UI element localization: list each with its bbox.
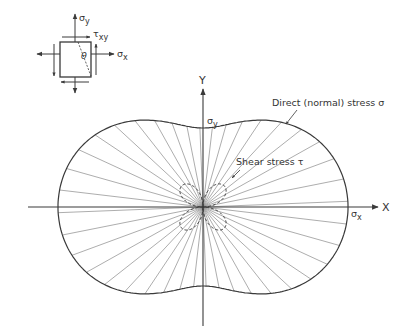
normal-stress-label: Direct (normal) stress σ bbox=[272, 97, 384, 108]
stress-ray bbox=[203, 179, 344, 207]
stress-ray bbox=[58, 207, 203, 213]
element-sigma-x-label: σx bbox=[117, 48, 128, 62]
stress-ray bbox=[203, 129, 302, 207]
stress-ray bbox=[155, 121, 203, 208]
stress-ray bbox=[164, 207, 203, 292]
sigma-x-axis-label: σx bbox=[351, 208, 362, 222]
stress-ray bbox=[72, 207, 203, 255]
stress-ray bbox=[86, 207, 203, 272]
element-theta-label: θ bbox=[81, 50, 87, 61]
stress-ray bbox=[62, 207, 203, 235]
stress-ray bbox=[203, 207, 251, 294]
stress-ray bbox=[203, 207, 234, 291]
stress-ray bbox=[105, 207, 204, 285]
stress-ray bbox=[172, 123, 203, 207]
stress-ray bbox=[203, 207, 327, 264]
stress-ray bbox=[135, 121, 203, 207]
x-axis-label: X bbox=[382, 201, 390, 214]
element-tau-label: τxy bbox=[93, 28, 108, 42]
stress-ray bbox=[203, 201, 348, 207]
normal-stress-leader bbox=[286, 110, 297, 124]
stress-polar-diagram: σy τxy σx θ X Y σx σy Direct (normal) st… bbox=[0, 0, 412, 336]
stress-ray bbox=[79, 150, 203, 207]
element-sigma-y-label: σy bbox=[79, 12, 90, 26]
y-axis-label: Y bbox=[198, 74, 206, 87]
sigma-y-axis-label: σy bbox=[207, 115, 218, 129]
stress-ray bbox=[203, 207, 271, 293]
stress-element bbox=[37, 14, 114, 93]
stress-ray bbox=[203, 142, 320, 207]
shear-stress-label: Shear stress τ bbox=[236, 156, 304, 167]
